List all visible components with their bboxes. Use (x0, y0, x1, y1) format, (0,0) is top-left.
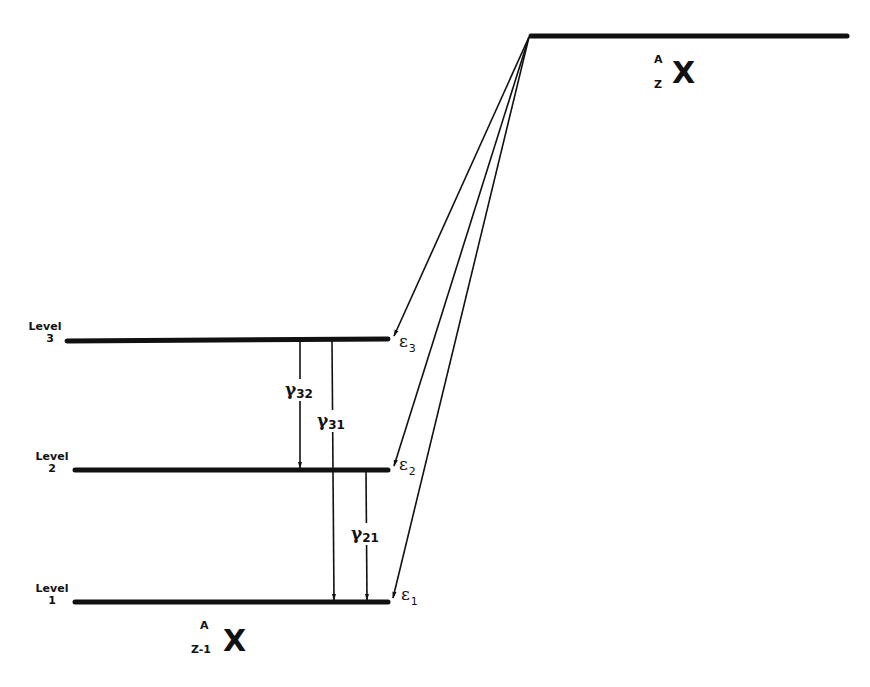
parent-element-symbol: X (672, 58, 695, 88)
epsilon-1-index: 1 (411, 595, 418, 608)
gamma-32-symbol: γ (285, 379, 296, 399)
epsilon-2-symbol: ε (399, 454, 408, 474)
level-1-label: Level 1 (35, 583, 69, 607)
gamma-31-index: 31 (328, 418, 345, 432)
level-3-number: 3 (28, 333, 62, 345)
gamma-21-symbol: γ (351, 523, 362, 543)
daughter-mass-number: A (200, 620, 209, 631)
level-3-line (67, 339, 388, 341)
epsilon-3-label: ε3 (399, 332, 416, 353)
gamma-31-label: γ31 (317, 410, 345, 432)
parent-nuclide-symbol: A Z X (650, 52, 700, 92)
epsilon-1-symbol: ε (401, 584, 410, 604)
gamma-21-label: γ21 (351, 523, 379, 545)
epsilon-2-arrow (394, 37, 529, 466)
level-2-number: 2 (35, 463, 69, 475)
parent-atomic-number: Z (654, 79, 662, 90)
epsilon-2-index: 2 (409, 465, 416, 478)
epsilon-3-symbol: ε (399, 331, 408, 351)
level-3-label: Level 3 (28, 321, 62, 345)
level-2-label: Level 2 (35, 451, 69, 475)
epsilon-2-label: ε2 (399, 455, 416, 476)
gamma-32-index: 32 (296, 387, 313, 401)
daughter-atomic-number: Z-1 (191, 644, 211, 655)
gamma-21-index: 21 (362, 531, 379, 545)
gamma-32-label: γ32 (285, 379, 313, 401)
epsilon-1-label: ε1 (401, 585, 418, 606)
decay-scheme-diagram (0, 0, 870, 687)
parent-mass-number: A (654, 54, 663, 65)
daughter-nuclide-symbol: A Z-1 X (188, 618, 258, 663)
daughter-element-symbol: X (223, 626, 246, 656)
level-3-label-text: Level (28, 321, 62, 333)
gamma-31-symbol: γ (317, 410, 328, 430)
level-1-number: 1 (35, 595, 69, 607)
epsilon-3-arrow (394, 37, 529, 336)
epsilon-1-arrow (393, 37, 529, 598)
gamma-31-arrow (332, 341, 334, 600)
epsilon-3-index: 3 (409, 342, 416, 355)
